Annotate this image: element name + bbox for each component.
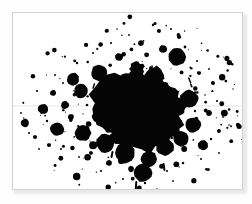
ink-droplet	[211, 81, 215, 85]
ink-speck	[216, 100, 218, 102]
ink-spray-speck	[169, 145, 174, 150]
ink-spray-speck	[236, 110, 239, 113]
ink-spray-speck	[236, 123, 240, 127]
ink-spray-speck	[142, 61, 143, 62]
ink-speck	[54, 74, 56, 76]
ink-spray-speck	[62, 56, 63, 57]
ink-spray-speck	[221, 110, 228, 117]
ink-spray-speck	[140, 167, 143, 170]
ink-spray-speck	[229, 139, 233, 143]
ink-spray-speck	[84, 43, 88, 47]
ink-spray-speck	[180, 121, 181, 122]
ink-spray-speck	[105, 184, 110, 189]
ink-spray-speck	[234, 84, 235, 85]
ink-speck	[144, 182, 146, 184]
ink-spray-speck	[40, 115, 41, 116]
ink-spray-speck	[99, 77, 104, 82]
ink-spray-speck	[226, 127, 228, 129]
ink-spray-speck	[89, 140, 90, 141]
ink-speck	[86, 104, 89, 107]
ink-spray-speck	[107, 156, 109, 158]
ink-speck	[28, 132, 30, 134]
ink-speck	[166, 170, 168, 172]
ink-droplet	[89, 151, 93, 155]
ink-speck	[200, 158, 202, 160]
ink-spray-speck	[96, 48, 98, 50]
ink-spray-speck	[118, 158, 124, 164]
ink-spray-speck	[54, 164, 57, 167]
ink-speck	[36, 90, 38, 92]
ink-speck	[232, 88, 233, 89]
ink-spray-speck	[44, 115, 46, 117]
ink-spray-speck	[201, 50, 202, 51]
ink-spray-speck	[148, 76, 150, 78]
ink-speck	[60, 148, 62, 150]
ink-spray-speck	[58, 156, 63, 161]
ink-spray-speck	[204, 101, 207, 104]
ink-speck	[228, 124, 230, 126]
ink-speck	[106, 130, 109, 133]
ink-spray-speck	[108, 64, 112, 68]
ink-spray-speck	[64, 131, 65, 132]
ink-streak	[188, 77, 192, 84]
ink-spray-speck	[153, 22, 156, 25]
ink-spray-speck	[219, 74, 225, 80]
ink-spray-speck	[201, 43, 203, 45]
ink-spray-speck	[73, 90, 74, 91]
ink-droplet	[38, 104, 48, 114]
ink-spray-speck	[82, 137, 85, 140]
ink-spray-speck	[224, 80, 227, 83]
ink-spray-speck	[137, 185, 142, 190]
ink-spray-speck	[121, 34, 123, 36]
ink-spray-speck	[119, 130, 120, 131]
ink-spray-speck	[178, 166, 179, 167]
ink-spray-speck	[173, 161, 179, 167]
ink-spray-speck	[162, 82, 168, 88]
ink-spray-speck	[226, 69, 229, 72]
ink-speck	[184, 46, 187, 49]
ink-spray-speck	[223, 56, 224, 57]
ink-spray-speck	[130, 48, 134, 52]
ink-speck	[78, 156, 80, 158]
ink-droplet	[197, 71, 201, 75]
ink-spray-speck	[191, 85, 193, 87]
ink-speck	[196, 60, 198, 62]
ink-spray-speck	[170, 137, 173, 140]
ink-spray-speck	[191, 128, 192, 129]
ink-spray-speck	[197, 96, 199, 98]
ink-spray-speck	[143, 40, 145, 42]
ink-spray-speck	[127, 14, 132, 19]
ink-spray-speck	[190, 67, 192, 69]
ink-spray-speck	[80, 127, 82, 129]
ink-spray-speck	[86, 121, 92, 127]
ink-spray-speck	[147, 79, 149, 81]
ink-spray-speck	[114, 119, 116, 121]
ink-spray-speck	[84, 154, 91, 161]
ink-speck	[194, 110, 196, 112]
ink-speck	[218, 152, 220, 154]
ink-spray-speck	[206, 49, 209, 52]
ink-spray-speck	[177, 33, 181, 37]
ink-spray-speck	[31, 74, 36, 79]
ink-speck	[46, 120, 48, 122]
ink-speck	[38, 148, 40, 150]
ink-speck	[92, 52, 94, 54]
ink-droplet	[198, 140, 208, 150]
ink-spray-speck	[62, 145, 65, 148]
ink-spray-speck	[173, 53, 174, 54]
ink-spray-speck	[237, 115, 238, 116]
ink-spray-speck	[211, 91, 212, 92]
ink-spray-speck	[112, 107, 115, 110]
ink-streak	[135, 181, 138, 190]
ink-spray-speck	[119, 141, 120, 142]
ink-speck	[62, 82, 64, 84]
ink-spray-speck	[86, 95, 88, 97]
ink-droplet	[50, 90, 56, 96]
ink-spray-speck	[82, 168, 83, 169]
ink-spray-speck	[224, 56, 229, 61]
ink-droplet	[106, 160, 112, 166]
ink-spray-speck	[189, 75, 191, 77]
ink-spray-speck	[96, 172, 97, 173]
ink-streak	[110, 151, 113, 158]
ink-spray-speck	[216, 55, 219, 58]
